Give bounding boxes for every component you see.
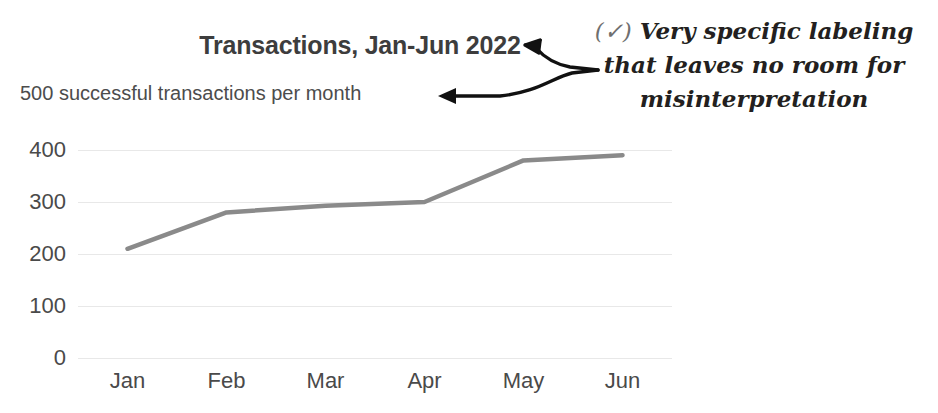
check-mark-icon: (✓) <box>595 18 632 44</box>
x-axis: JanFebMarAprMayJun <box>78 368 672 402</box>
y-axis-tick-label: 300 <box>29 189 66 215</box>
x-axis-tick-label: Apr <box>407 368 441 394</box>
y-axis-tick-label: 100 <box>29 293 66 319</box>
plot-area <box>78 150 672 358</box>
y-axis-tick-label: 200 <box>29 241 66 267</box>
x-axis-tick-label: May <box>503 368 545 394</box>
chart-figure: Transactions, Jan-Jun 2022 500 successfu… <box>0 0 938 413</box>
y-axis-tick-label: 400 <box>29 137 66 163</box>
annotation-note: (✓) Very specific labeling that leaves n… <box>576 14 932 116</box>
x-axis-tick-label: Feb <box>208 368 246 394</box>
x-axis-tick-label: Jan <box>110 368 145 394</box>
annotation-line-3: misinterpretation <box>576 82 932 116</box>
x-axis-tick-label: Mar <box>307 368 345 394</box>
series-line-successful-transactions <box>78 142 672 366</box>
chart-subtitle: 500 successful transactions per month <box>20 82 361 105</box>
annotation-line-1-text: Very specific labeling <box>640 17 914 44</box>
y-axis-tick-label: 0 <box>54 345 66 371</box>
annotation-line-1: (✓) Very specific labeling <box>576 14 932 48</box>
x-axis-tick-label: Jun <box>605 368 640 394</box>
annotation-line-2: that leaves no room for <box>576 48 932 82</box>
y-axis: 0100200300400 <box>0 150 66 358</box>
